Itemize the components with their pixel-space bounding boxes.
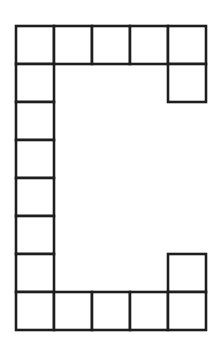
grid-cell bbox=[54, 292, 92, 330]
grid-cell bbox=[168, 64, 206, 102]
grid-cell bbox=[16, 254, 54, 292]
grid-cell bbox=[130, 26, 168, 64]
grid-cell bbox=[130, 292, 168, 330]
c-shape-grid-diagram bbox=[0, 0, 220, 357]
grid-cell bbox=[54, 26, 92, 64]
grid-squares bbox=[0, 0, 220, 357]
grid-cell bbox=[16, 216, 54, 254]
grid-cell bbox=[16, 140, 54, 178]
grid-cell bbox=[168, 26, 206, 64]
grid-cell bbox=[168, 254, 206, 292]
grid-cell bbox=[92, 26, 130, 64]
grid-cell bbox=[16, 64, 54, 102]
grid-cell bbox=[16, 178, 54, 216]
grid-cell bbox=[16, 26, 54, 64]
grid-cell bbox=[92, 292, 130, 330]
grid-cell bbox=[168, 292, 206, 330]
grid-cell bbox=[16, 102, 54, 140]
grid-cell bbox=[16, 292, 54, 330]
